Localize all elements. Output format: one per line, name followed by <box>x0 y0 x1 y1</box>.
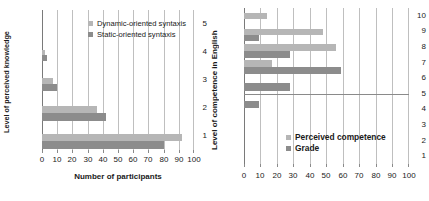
x-tick-mark <box>193 150 194 153</box>
x-tick-mark <box>260 164 261 167</box>
legend: Dynamic-oriented syntaxis Static-oriente… <box>88 20 186 41</box>
x-tick-label: 90 <box>175 156 184 164</box>
chart-perceived-knowledge: Level of perceived knowledge 5 4 3 2 1 <box>0 0 210 201</box>
legend-item-static: Static-oriented syntaxis <box>88 31 186 39</box>
legend-item-perceived-competence: Perceived competence <box>286 133 386 141</box>
x-tick-label: 30 <box>84 156 93 164</box>
x-tick-label: 100 <box>402 172 415 180</box>
x-tick-mark <box>392 164 393 167</box>
x-tick-label: 40 <box>99 156 108 164</box>
bar-static-2 <box>42 113 106 121</box>
bar-perceived-10 <box>244 13 267 19</box>
x-tick-mark <box>148 150 149 153</box>
bar-static-4 <box>42 55 47 61</box>
legend: Perceived competence Grade <box>286 133 386 156</box>
legend-item-dynamic: Dynamic-oriented syntaxis <box>88 20 186 28</box>
bar-grade-9 <box>244 35 259 41</box>
gridline <box>392 8 393 164</box>
x-tick-mark <box>72 150 73 153</box>
legend-label: Dynamic-oriented syntaxis <box>97 20 186 28</box>
x-tick-mark <box>293 164 294 167</box>
x-tick-mark <box>103 150 104 153</box>
legend-item-grade: Grade <box>286 144 386 152</box>
x-tick-label: 80 <box>372 172 381 180</box>
x-tick-label: 60 <box>339 172 348 180</box>
reference-line <box>244 94 409 95</box>
x-tick-mark <box>343 164 344 167</box>
x-tick-mark <box>326 164 327 167</box>
gridline <box>57 10 58 150</box>
x-tick-mark <box>244 164 245 167</box>
y-axis-label: Level of perceived knowledge <box>3 6 10 158</box>
x-tick-label: 70 <box>144 156 153 164</box>
x-tick-label: 20 <box>68 156 77 164</box>
x-tick-mark <box>42 150 43 153</box>
x-tick-label: 90 <box>388 172 397 180</box>
legend-swatch-icon <box>286 135 291 140</box>
y-axis-label: Level of competence in English <box>211 6 219 174</box>
x-tick-label: 30 <box>289 172 298 180</box>
gridline <box>72 10 73 150</box>
bar-grade-5 <box>244 101 259 108</box>
legend-swatch-icon <box>88 32 93 37</box>
bar-grade-6 <box>244 83 290 91</box>
x-tick-label: 10 <box>53 156 62 164</box>
legend-swatch-icon <box>88 21 93 26</box>
x-tick-mark <box>164 150 165 153</box>
legend-label: Grade <box>295 144 319 152</box>
x-tick-label: 0 <box>40 156 44 164</box>
bar-dynamic-1 <box>42 134 182 141</box>
x-tick-mark <box>408 164 409 167</box>
x-tick-label: 100 <box>187 156 200 164</box>
x-tick-mark <box>277 164 278 167</box>
legend-label: Perceived competence <box>295 133 386 141</box>
x-tick-label: 70 <box>355 172 364 180</box>
x-tick-label: 20 <box>273 172 282 180</box>
x-tick-mark <box>118 150 119 153</box>
legend-swatch-icon <box>286 146 291 151</box>
bar-perceived-7 <box>244 60 272 67</box>
bar-static-1 <box>42 141 164 149</box>
x-tick-mark <box>133 150 134 153</box>
x-tick-label: 80 <box>160 156 169 164</box>
x-tick-label: 60 <box>129 156 138 164</box>
bar-grade-7 <box>244 67 341 74</box>
x-axis-label: Number of participants <box>42 173 194 181</box>
gridline <box>408 8 409 164</box>
bar-perceived-8 <box>244 44 336 51</box>
figure: Level of perceived knowledge 5 4 3 2 1 <box>0 0 429 201</box>
x-tick-mark <box>376 164 377 167</box>
gridline <box>193 10 194 150</box>
bar-grade-8 <box>244 51 290 58</box>
bar-dynamic-2 <box>42 106 97 113</box>
x-tick-label: 0 <box>242 172 246 180</box>
x-tick-mark <box>359 164 360 167</box>
x-tick-label: 50 <box>114 156 123 164</box>
x-tick-label: 10 <box>256 172 265 180</box>
x-tick-mark <box>310 164 311 167</box>
legend-label: Static-oriented syntaxis <box>97 31 176 39</box>
x-tick-label: 50 <box>322 172 331 180</box>
x-tick-mark <box>88 150 89 153</box>
x-tick-mark <box>57 150 58 153</box>
chart-competence-english: Level of competence in English 10 9 8 7 … <box>210 0 429 201</box>
bar-static-3 <box>42 84 57 91</box>
x-tick-label: 40 <box>306 172 315 180</box>
x-tick-mark <box>179 150 180 153</box>
